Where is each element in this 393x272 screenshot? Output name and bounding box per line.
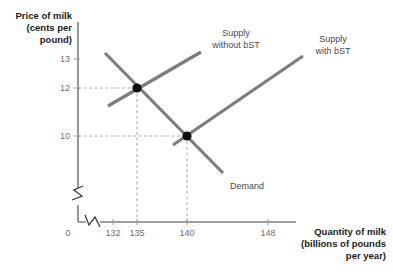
curve-label-supply-without-bst: Supply without bST [211, 28, 260, 50]
y-axis-title-line-2: (cents per [27, 22, 73, 33]
curve-label-demand: Demand [230, 181, 264, 191]
equilibrium-point-with-bst [182, 131, 191, 140]
curve-supply-without-bst [108, 52, 201, 106]
y-axis-title-line-1: Price of milk [16, 10, 73, 21]
curve-demand [105, 53, 223, 173]
x-axis-break-icon [85, 215, 100, 227]
y-axis-title: Price of milk (cents per pound) [16, 10, 73, 45]
supply-without-bst-label-line-1: Supply [222, 28, 250, 38]
equilibrium-point-without-bst [132, 83, 141, 92]
supply-with-bst-label-line-1: Supply [319, 34, 347, 44]
guide-lines [78, 88, 187, 222]
x-axis-title: Quantity of milk (billions of pounds per… [301, 226, 387, 261]
x-tick-label-148: 148 [260, 228, 275, 238]
y-axis-ticks: 13 12 10 [60, 54, 80, 141]
curve-label-supply-with-bst: Supply with bST [314, 34, 351, 56]
y-tick-label-12: 12 [60, 83, 70, 93]
supply-without-bst-label-line-2: without bST [211, 40, 260, 50]
supply-with-bst-label-line-2: with bST [314, 46, 351, 56]
x-tick-label-135: 135 [129, 228, 144, 238]
x-axis-title-line-1: Quantity of milk [314, 226, 387, 237]
y-tick-label-13: 13 [60, 54, 70, 64]
x-tick-label-140: 140 [179, 228, 194, 238]
x-tick-label-132: 132 [105, 228, 120, 238]
y-tick-label-10: 10 [60, 131, 70, 141]
chart-svg: 13 12 10 0 132 135 140 148 Price of milk… [0, 0, 393, 272]
x-axis-title-line-3: per year) [346, 250, 386, 261]
demand-label: Demand [230, 181, 264, 191]
supply-demand-chart: 13 12 10 0 132 135 140 148 Price of milk… [0, 0, 393, 272]
x-axis-title-line-2: (billions of pounds [301, 238, 386, 249]
y-axis-title-line-3: pound) [40, 34, 72, 45]
curves [105, 52, 303, 173]
y-axis-break-icon [72, 186, 83, 200]
x-tick-label-0: 0 [65, 228, 70, 238]
curve-supply-with-bst [173, 56, 303, 145]
